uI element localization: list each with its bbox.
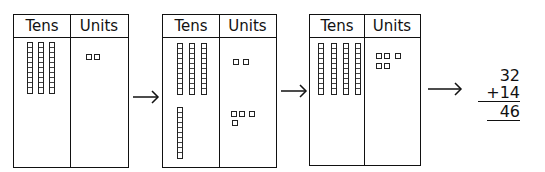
table-header: Tens Units <box>14 15 128 38</box>
tens-rod <box>27 42 33 94</box>
addend-2: +14 <box>478 84 520 101</box>
unit-cube <box>395 53 401 59</box>
tens-rod <box>49 42 55 94</box>
tens-rod <box>201 43 207 95</box>
sum-result: 46 <box>478 101 520 120</box>
unit-cube <box>376 63 382 69</box>
tens-heading: Tens <box>310 15 364 37</box>
unit-cube <box>86 54 92 60</box>
unit-cube <box>384 53 390 59</box>
arrow-icon <box>132 90 160 104</box>
tens-rod <box>38 42 44 94</box>
units-heading: Units <box>70 15 128 37</box>
tens-rod <box>331 43 337 95</box>
tens-rod <box>343 43 349 95</box>
unit-cube <box>243 59 249 65</box>
unit-cube <box>239 111 245 117</box>
tens-heading: Tens <box>14 15 70 37</box>
units-heading: Units <box>219 15 276 37</box>
addend-1: 32 <box>478 67 520 84</box>
table-header: Tens Units <box>310 15 420 38</box>
units-heading: Units <box>364 15 420 37</box>
unit-cube <box>384 63 390 69</box>
place-value-table-2: Tens Units <box>162 14 277 168</box>
unit-cube <box>233 59 239 65</box>
column-addition: 32 +14 46 <box>478 67 520 121</box>
tens-rod <box>355 43 361 95</box>
tens-rod <box>177 43 183 95</box>
tens-heading: Tens <box>163 15 219 37</box>
unit-cube <box>376 53 382 59</box>
unit-cube <box>232 120 238 126</box>
tens-rod <box>318 43 324 95</box>
column-divider <box>219 15 220 167</box>
arrow-icon <box>280 84 308 98</box>
arrow-icon <box>427 82 463 96</box>
tens-rod <box>177 107 183 159</box>
place-value-table-3: Tens Units <box>309 14 421 166</box>
column-divider <box>364 15 365 165</box>
tens-rod <box>189 43 195 95</box>
column-divider <box>70 15 71 167</box>
place-value-table-1: Tens Units <box>13 14 129 168</box>
unit-cube <box>249 111 255 117</box>
unit-cube <box>94 54 100 60</box>
unit-cube <box>231 111 237 117</box>
